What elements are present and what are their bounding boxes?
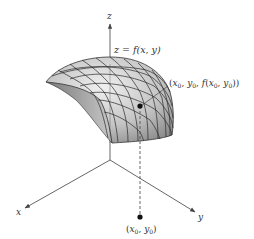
surface-point-label: (x0, y0, f(x0, y0)) — [169, 78, 239, 89]
x-axis-label: x — [16, 207, 21, 217]
y-axis — [110, 160, 195, 212]
surface-equation-label: z = f(x, y) — [113, 44, 161, 55]
z-axis-label: z — [106, 11, 112, 21]
domain-point — [137, 214, 142, 219]
surface-point — [137, 103, 142, 108]
domain-point-label: (x0, y0) — [126, 224, 157, 235]
surface — [46, 57, 173, 143]
surface-diagram: z x y z = f(x, y) (x0, y0, f(x0, y0)) (x… — [0, 0, 254, 239]
x-axis — [25, 160, 110, 208]
y-axis-label: y — [197, 212, 204, 222]
